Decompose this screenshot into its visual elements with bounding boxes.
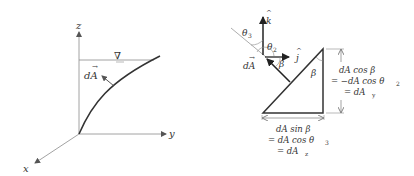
j-hat-mark: ^ [296, 47, 302, 55]
vector-arrow-mark: → [249, 54, 255, 62]
left-diagram: z y x ∇ dA → [23, 20, 175, 174]
horizontal-side-line1: dA sin β [276, 124, 311, 134]
vector-arrow-mark: → [92, 63, 98, 71]
theta3-subscript: 3 [248, 32, 252, 39]
area-vector-arrow [102, 76, 114, 86]
beta-triangle-arc [316, 57, 323, 61]
horizontal-side-line3-sub: z [305, 150, 308, 157]
right-diagram: k ^ θ 3 θ 2 j ^ dA → β β dA cos β = −dA … [231, 9, 400, 157]
gate-triangle [263, 49, 323, 113]
vertical-side-line1: dA cos β [339, 65, 375, 75]
vertical-side-line3-sub: y [371, 91, 376, 99]
beta-triangle-label: β [310, 68, 316, 78]
horizontal-side-line2: = dA cos θ [268, 135, 314, 145]
vertical-side-line2-sub: 2 [396, 80, 400, 87]
z-axis-label: z [75, 20, 82, 31]
horizontal-side-line2-sub: 3 [325, 139, 329, 146]
beta-vector-label: β [278, 59, 284, 69]
k-unit-label: k [266, 16, 271, 26]
k-hat-mark: ^ [266, 9, 272, 17]
vertical-side-line3: = dA [344, 87, 365, 97]
area-vector-label: dA [243, 61, 256, 71]
vertical-side-line2: = −dA cos θ [331, 76, 384, 86]
free-surface-icon: ∇ [114, 50, 121, 61]
area-vector-label: dA [84, 70, 98, 81]
x-axis-label: x [23, 163, 29, 174]
horizontal-side-line3: = dA [277, 146, 298, 156]
theta2-subscript: 2 [273, 46, 277, 53]
y-axis-label: y [168, 128, 175, 139]
x-axis [35, 134, 79, 163]
theta3-arc [251, 40, 263, 45]
diagram-canvas: z y x ∇ dA → k ^ θ 3 θ 2 j ^ dA → β [0, 0, 414, 176]
